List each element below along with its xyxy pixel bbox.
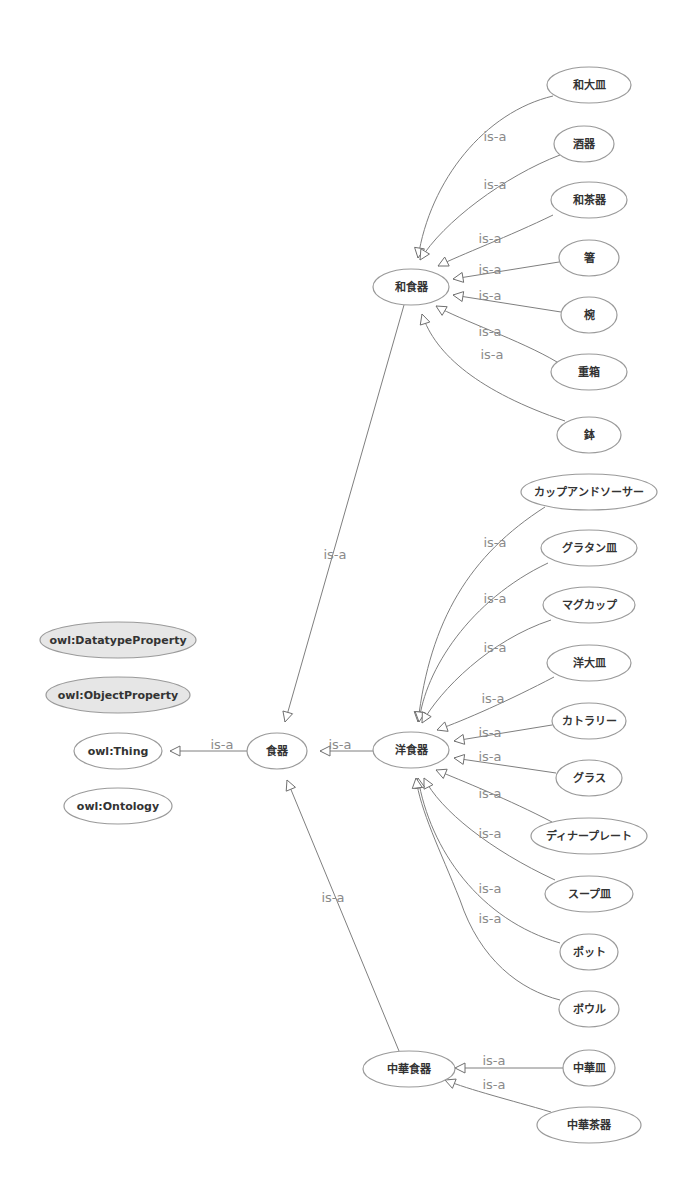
- node-wan[interactable]: 椀: [561, 297, 617, 333]
- node-label: カップアンドソーサー: [534, 485, 644, 499]
- edge-label: is-a: [478, 911, 501, 926]
- edge-mug-to-yoshokki: is-a: [422, 620, 551, 723]
- edge-label: is-a: [483, 535, 506, 550]
- edge-label: is-a: [483, 640, 506, 655]
- edge-label: is-a: [483, 177, 506, 192]
- node-hashi[interactable]: 箸: [559, 240, 619, 276]
- node-soup[interactable]: スープ皿: [545, 876, 633, 912]
- edge-line: [287, 780, 399, 1051]
- node-waozara[interactable]: 和大皿: [547, 67, 631, 103]
- edge-label: is-a: [478, 288, 501, 303]
- edge-label: is-a: [483, 591, 506, 606]
- edge-label: is-a: [482, 1077, 505, 1092]
- edge-line: [453, 262, 559, 279]
- is-a-arrowhead-icon: [424, 778, 433, 789]
- node-label: 中華茶器: [567, 1118, 612, 1132]
- node-thing[interactable]: owl:Thing: [74, 733, 162, 769]
- node-hachi[interactable]: 鉢: [557, 417, 621, 453]
- edge-label: is-a: [323, 547, 346, 562]
- node-jubako[interactable]: 重箱: [551, 354, 627, 390]
- node-bowl[interactable]: ボウル: [559, 991, 619, 1027]
- node-label: グラス: [573, 771, 606, 785]
- is-a-arrowhead-icon: [453, 272, 464, 282]
- edge-yoshokki-to-shokki: is-a: [320, 737, 373, 757]
- node-label: マグカップ: [562, 598, 618, 612]
- is-a-arrowhead-icon: [286, 780, 295, 791]
- edge-label: is-a: [478, 231, 501, 246]
- node-gratin[interactable]: グラタン皿: [541, 530, 637, 566]
- edge-line: [453, 295, 561, 312]
- nodes-layer: owl:DatatypePropertyowl:ObjectPropertyow…: [40, 67, 657, 1143]
- node-label: 酒器: [573, 138, 596, 151]
- node-label: ポット: [573, 945, 606, 959]
- is-a-arrowhead-icon: [170, 746, 180, 756]
- node-label: 洋大皿: [573, 656, 606, 670]
- node-label: スープ皿: [568, 887, 611, 901]
- is-a-arrowhead-icon: [445, 1079, 456, 1088]
- node-label: owl:Ontology: [77, 800, 159, 813]
- edge-chukazara-to-chukashokki: is-a: [455, 1053, 563, 1074]
- node-cup_saucer[interactable]: カップアンドソーサー: [521, 474, 657, 510]
- edge-glass-to-yoshokki: is-a: [454, 749, 556, 774]
- node-pot[interactable]: ポット: [560, 934, 618, 970]
- edge-wan-to-washokki: is-a: [453, 288, 561, 313]
- ontology-graph: is-ais-ais-ais-ais-ais-ais-ais-ais-ais-a…: [0, 0, 695, 1188]
- node-label: グラタン皿: [562, 541, 617, 555]
- node-chukachaki[interactable]: 中華茶器: [537, 1107, 641, 1143]
- node-label: 洋食器: [395, 743, 429, 757]
- edge-shokki-to-thing: is-a: [170, 737, 247, 757]
- edge-label: is-a: [478, 826, 501, 841]
- node-glass[interactable]: グラス: [556, 760, 622, 796]
- is-a-arrowhead-icon: [454, 734, 465, 744]
- node-yoozara[interactable]: 洋大皿: [547, 645, 631, 681]
- node-wachaki[interactable]: 和茶器: [551, 182, 627, 218]
- node-chukazara[interactable]: 中華皿: [563, 1050, 615, 1086]
- node-objprop[interactable]: owl:ObjectProperty: [46, 677, 190, 713]
- edge-chukachaki-to-chukashokki: is-a: [445, 1077, 551, 1113]
- is-a-arrowhead-icon: [453, 292, 464, 302]
- node-label: 和大皿: [573, 78, 606, 92]
- node-mug[interactable]: マグカップ: [543, 587, 635, 623]
- node-label: ボウル: [573, 1002, 606, 1016]
- node-yoshokki[interactable]: 洋食器: [373, 732, 449, 768]
- edge-cup_saucer-to-yoshokki: is-a: [414, 507, 545, 722]
- is-a-arrowhead-icon: [455, 1063, 465, 1073]
- node-label: ディナープレート: [546, 829, 632, 843]
- is-a-arrowhead-icon: [283, 711, 293, 722]
- node-label: 中華皿: [573, 1061, 606, 1075]
- edge-label: is-a: [478, 881, 501, 896]
- is-a-arrowhead-icon: [438, 257, 449, 266]
- is-a-arrowhead-icon: [420, 249, 429, 260]
- node-dinner[interactable]: ディナープレート: [531, 818, 647, 854]
- edge-wachaki-to-washokki: is-a: [438, 215, 553, 266]
- edge-line: [454, 758, 556, 773]
- node-label: 箸: [584, 251, 595, 265]
- edge-cutlery-to-yoshokki: is-a: [454, 725, 552, 745]
- edge-label: is-a: [482, 1053, 505, 1068]
- node-label: 食器: [266, 744, 289, 758]
- node-washokki[interactable]: 和食器: [373, 269, 449, 305]
- node-label: 和茶器: [573, 193, 607, 207]
- node-label: 椀: [584, 308, 595, 322]
- node-label: カトラリー: [562, 715, 617, 728]
- node-dtprop[interactable]: owl:DatatypeProperty: [40, 622, 196, 658]
- edge-label: is-a: [478, 725, 501, 740]
- edge-washokki-to-shokki: is-a: [283, 305, 404, 722]
- node-label: owl:ObjectProperty: [58, 689, 178, 702]
- edges-layer: is-ais-ais-ais-ais-ais-ais-ais-ais-ais-a…: [170, 96, 565, 1112]
- edge-label: is-a: [480, 347, 503, 362]
- node-chukashokki[interactable]: 中華食器: [363, 1051, 455, 1087]
- node-shokki[interactable]: 食器: [247, 733, 307, 769]
- is-a-arrowhead-icon: [422, 712, 431, 723]
- node-ontology[interactable]: owl:Ontology: [64, 788, 172, 824]
- is-a-arrowhead-icon: [420, 314, 430, 325]
- is-a-arrowhead-icon: [436, 769, 447, 778]
- node-shuki[interactable]: 酒器: [554, 126, 614, 162]
- edge-line: [454, 725, 552, 741]
- edge-label: is-a: [478, 749, 501, 764]
- is-a-arrowhead-icon: [437, 722, 448, 731]
- is-a-arrowhead-icon: [454, 755, 465, 765]
- node-cutlery[interactable]: カトラリー: [552, 703, 626, 739]
- edge-label: is-a: [478, 786, 501, 801]
- edge-label: is-a: [328, 737, 351, 752]
